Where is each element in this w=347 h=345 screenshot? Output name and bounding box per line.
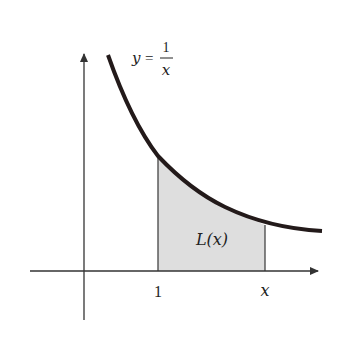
region-label: L(x)	[195, 230, 228, 249]
curve-equation-label: y = 1 x	[131, 40, 173, 79]
tick-label-x: x	[260, 281, 269, 300]
equation-denominator: x	[162, 61, 171, 79]
equation-equals: =	[145, 50, 153, 66]
equation-numerator: 1	[163, 40, 170, 55]
equation-lhs: y	[131, 49, 141, 67]
tick-label-one: 1	[154, 283, 162, 300]
area-under-hyperbola-diagram: y = 1 x L(x) 1 x	[0, 0, 347, 345]
